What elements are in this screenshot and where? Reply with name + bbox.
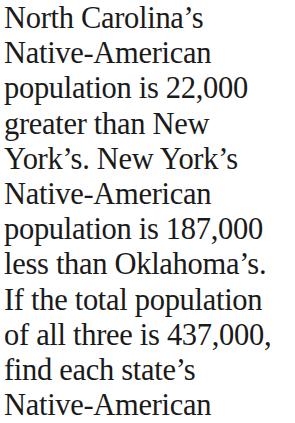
text-line: population is 22,000 (4, 71, 294, 106)
text-line: less than Oklahoma’s. (4, 247, 294, 282)
text-line: If the total population (4, 283, 294, 318)
text-line: find each state’s (4, 353, 294, 388)
text-line: Native-American (4, 388, 294, 423)
text-line: North Carolina’s (4, 1, 294, 36)
text-line: Native-American (4, 36, 294, 71)
text-line: of all three is 437,000, (4, 318, 294, 353)
text-line: greater than New (4, 107, 294, 142)
text-line: York’s. New York’s (4, 142, 294, 177)
word-problem-text: North Carolina’s Native-American populat… (4, 1, 294, 423)
text-line: population is 187,000 (4, 212, 294, 247)
text-line: Native-American (4, 177, 294, 212)
